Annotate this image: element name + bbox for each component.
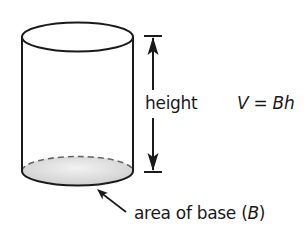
formula-rhs: Bh [273,93,295,113]
height-label: height [144,93,198,113]
cylinder-top [22,23,133,52]
arrow-head-icon [97,189,108,200]
base-variable: B [247,203,258,223]
base-area-label: area of base (B) [134,203,265,223]
formula-eq: = [253,93,267,113]
formula-lhs: V [237,93,248,113]
volume-formula: V = Bh [237,93,294,113]
cylinder-diagram [0,0,308,232]
base-pointer-arrow [97,189,126,212]
